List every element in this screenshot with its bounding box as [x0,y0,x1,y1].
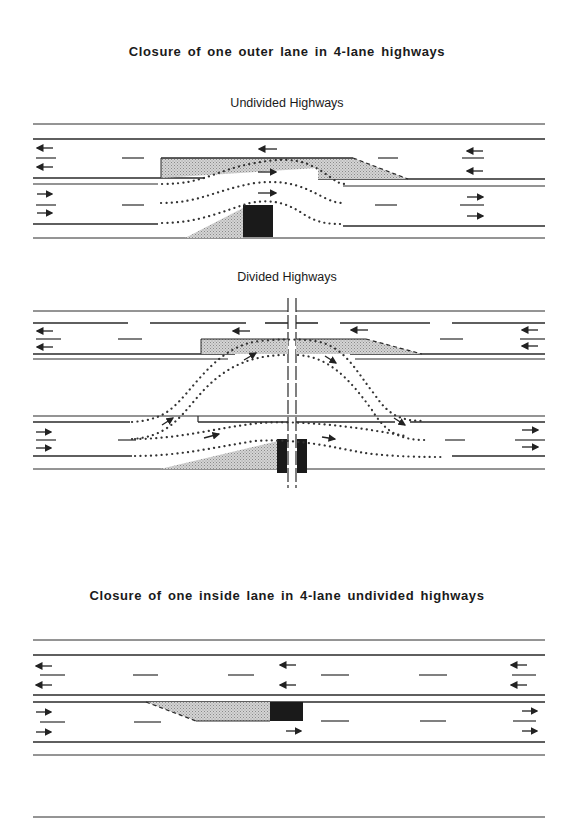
diagram-undivided [33,124,545,238]
work-zone-block-inside-lane [270,702,303,721]
taper-divided-upper [201,339,422,354]
direction-arrows-inside-lane [36,665,537,732]
taper-inside-lane [146,702,270,721]
taper-divided-lower [160,441,278,469]
arrow-diagonal-icon [325,356,336,363]
work-zone-block-undivided [243,205,273,237]
highway-diagrams [0,0,574,822]
arrow-diagonal-icon [394,418,405,425]
work-zone-block-divided-left [277,439,287,473]
arrow-diagonal-icon [244,353,256,360]
arrow-right-icon [204,434,219,438]
taper-undivided-upper [161,158,408,179]
diagram-divided [33,298,545,488]
work-zone-block-divided-right [297,439,307,473]
diagram-inside-lane [33,640,545,817]
arrow-right-icon [322,437,335,439]
taper-undivided-lower [185,208,243,238]
